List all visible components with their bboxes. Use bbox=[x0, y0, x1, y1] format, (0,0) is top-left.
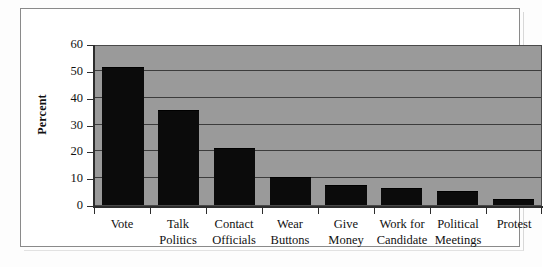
bar-talk-politics bbox=[158, 110, 199, 205]
x-axis-label-line: Candidate bbox=[375, 233, 429, 249]
plot-area bbox=[94, 45, 542, 206]
bar-slot bbox=[207, 46, 263, 205]
bar-vote bbox=[102, 67, 143, 205]
bar-give-money bbox=[325, 185, 366, 205]
bar-slot bbox=[151, 46, 207, 205]
x-axis-label-line: Officials bbox=[207, 233, 261, 249]
x-axis-labels: VoteTalkPoliticsContactOfficialsWearButt… bbox=[94, 217, 542, 248]
bar-wear-buttons bbox=[270, 177, 311, 205]
x-axis-label-line: Wear bbox=[263, 217, 317, 233]
y-tick-label-50: 50 bbox=[43, 65, 83, 78]
bar-slot bbox=[374, 46, 430, 205]
x-axis-label-line: Money bbox=[319, 233, 373, 249]
x-tick bbox=[430, 208, 486, 214]
y-tick-10 bbox=[87, 179, 94, 180]
y-axis-title: Percent bbox=[35, 80, 50, 150]
x-axis-label-vote: Vote bbox=[94, 217, 150, 248]
x-axis-label-line: Politics bbox=[151, 233, 205, 249]
x-axis-tick-end bbox=[541, 208, 542, 214]
x-tick bbox=[486, 208, 542, 214]
bar-slot bbox=[262, 46, 318, 205]
x-axis-label-protest: Protest bbox=[486, 217, 542, 248]
x-tick bbox=[318, 208, 374, 214]
bar-protest bbox=[493, 199, 534, 205]
y-tick-label-0: 0 bbox=[43, 199, 83, 212]
x-axis-label-work-for-candidate: Work forCandidate bbox=[374, 217, 430, 248]
x-tick bbox=[150, 208, 206, 214]
x-tick bbox=[374, 208, 430, 214]
x-axis-label-line: Meetings bbox=[431, 233, 485, 249]
bar-series bbox=[95, 46, 541, 205]
x-tick bbox=[206, 208, 262, 214]
x-axis-label-line: Contact bbox=[207, 217, 261, 233]
x-tick bbox=[94, 208, 150, 214]
x-axis-ticks bbox=[94, 208, 542, 214]
x-axis-label-line: Talk bbox=[151, 217, 205, 233]
chart-frame: Percent 0102030405060 VoteTalkPoliticsCo… bbox=[20, 8, 520, 247]
bar-slot bbox=[430, 46, 486, 205]
bar-slot bbox=[485, 46, 541, 205]
y-tick-20 bbox=[87, 152, 94, 153]
x-axis-label-contact-officials: ContactOfficials bbox=[206, 217, 262, 248]
y-tick-label-30: 30 bbox=[43, 119, 83, 132]
bar-slot bbox=[95, 46, 151, 205]
y-tick-50 bbox=[87, 72, 94, 73]
y-tick-label-20: 20 bbox=[43, 145, 83, 158]
y-tick-60 bbox=[87, 45, 94, 46]
x-tick bbox=[262, 208, 318, 214]
bar-political-meetings bbox=[437, 191, 478, 205]
x-axis-label-line: Protest bbox=[487, 217, 541, 233]
y-tick-label-60: 60 bbox=[43, 38, 83, 51]
bar-contact-officials bbox=[214, 148, 255, 205]
y-tick-40 bbox=[87, 99, 94, 100]
x-axis-label-line: Buttons bbox=[263, 233, 317, 249]
y-tick-label-40: 40 bbox=[43, 92, 83, 105]
x-axis-label-political-meetings: PoliticalMeetings bbox=[430, 217, 486, 248]
x-axis-label-talk-politics: TalkPolitics bbox=[150, 217, 206, 248]
x-axis-label-line: Vote bbox=[95, 217, 149, 233]
x-axis-label-line: Give bbox=[319, 217, 373, 233]
bar-work-for-candidate bbox=[381, 188, 422, 205]
x-axis-label-line: Work for bbox=[375, 217, 429, 233]
y-tick-label-10: 10 bbox=[43, 172, 83, 185]
x-axis-label-wear-buttons: WearButtons bbox=[262, 217, 318, 248]
x-axis-label-line: Political bbox=[431, 217, 485, 233]
x-axis-label-give-money: GiveMoney bbox=[318, 217, 374, 248]
y-tick-30 bbox=[87, 126, 94, 127]
bar-slot bbox=[318, 46, 374, 205]
